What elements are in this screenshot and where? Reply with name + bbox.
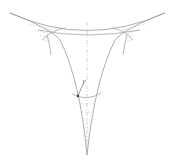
diagram-canvas: γ — [0, 0, 177, 161]
cusp-arc-right — [112, 28, 133, 40]
point-label: γ — [82, 77, 86, 84]
curve-top-branch — [10, 13, 165, 31]
marked-point — [77, 95, 79, 97]
deltoid-figure — [0, 0, 177, 161]
curve-right-branch — [87, 13, 165, 155]
tangent-arrow — [78, 84, 83, 96]
